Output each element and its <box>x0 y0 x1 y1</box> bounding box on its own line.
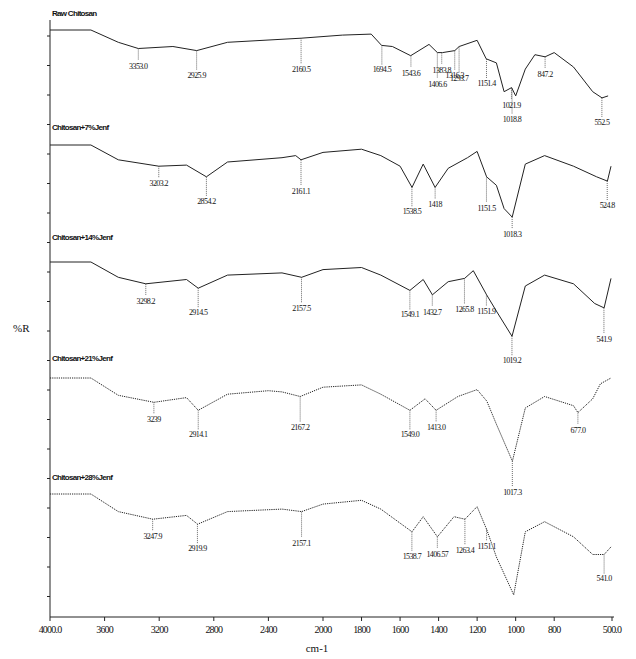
series-5: Chitosan+28%Jenf3247.92919.92157.11538.7… <box>50 473 612 595</box>
peak-label: 1406.57 <box>426 550 448 559</box>
series-title: Chitosan+28%Jenf <box>52 473 113 482</box>
series-title: Chitosan+7%Jenf <box>52 123 109 132</box>
series-4: Chitosan+21%Jenf32392914.12167.21549.014… <box>50 354 611 497</box>
peak-label: 1694.5 <box>373 65 392 74</box>
x-tick-label: 2800 <box>205 624 223 635</box>
peak-label: 2167.2 <box>291 423 310 432</box>
peak-label: 2925.9 <box>187 71 206 80</box>
series-1: Raw Chitosan3353.02925.92160.51694.51543… <box>50 9 610 127</box>
x-tick-label: 2400 <box>260 624 278 635</box>
peak-label: 3353.0 <box>129 62 148 71</box>
x-axis-label: cm-1 <box>306 642 329 654</box>
series-2: Chitosan+7%Jenf3203.22854.22161.11538.51… <box>50 123 615 239</box>
peak-label: 1018.8 <box>503 115 522 124</box>
peak-label: 1413.0 <box>427 423 446 432</box>
peak-label: 1538.7 <box>403 552 422 561</box>
peak-label: 1019.2 <box>503 356 522 365</box>
x-tick-label: 4000.0 <box>39 624 63 635</box>
x-tick-label: 1800 <box>353 624 371 635</box>
spectrum-line <box>50 378 611 461</box>
ftir-chart: 4000.03600320028002400200018001600140012… <box>0 0 636 659</box>
x-tick-label: 1000 <box>507 624 525 635</box>
peak-label: 1406.6 <box>428 80 447 89</box>
series-3: Chitosan+14%Jenf3298.22914.52157.51549.1… <box>50 233 612 365</box>
peak-label: 2157.1 <box>292 539 311 548</box>
peak-label: 677.0 <box>570 426 586 435</box>
peak-label: 1018.3 <box>503 230 522 239</box>
x-tick-label: 3200 <box>151 624 169 635</box>
x-tick-label: 800 <box>548 624 561 635</box>
peak-label: 552.5 <box>594 118 610 127</box>
peak-label: 1151.4 <box>477 79 496 88</box>
peak-label: 1151.5 <box>477 204 496 213</box>
spectrum-line <box>50 494 611 595</box>
series-title: Chitosan+21%Jenf <box>52 354 113 363</box>
peak-label: 1549.1 <box>401 310 420 319</box>
peak-label: 1543.6 <box>402 69 421 78</box>
peak-label: 847.2 <box>538 70 554 79</box>
peak-label: 1549.0 <box>401 430 420 439</box>
peak-label: 1151.1 <box>478 542 497 551</box>
peak-label: 2914.5 <box>189 308 208 317</box>
peak-label: 1432.7 <box>423 308 442 317</box>
peak-label: 1293.7 <box>450 74 469 83</box>
peak-label: 3247.9 <box>143 532 162 541</box>
peak-label: 3298.2 <box>137 297 156 306</box>
x-tick-label: 1600 <box>392 624 410 635</box>
series-title: Chitosan+14%Jenf <box>52 233 113 242</box>
x-tick-label: 1200 <box>469 624 487 635</box>
peak-label: 2919.9 <box>188 544 207 553</box>
y-axis-label: %R <box>13 322 30 334</box>
peak-label: 2854.2 <box>197 197 216 206</box>
peak-label: 3239 <box>147 415 161 424</box>
peak-label: 2157.5 <box>292 304 311 313</box>
spectrum-line <box>50 145 611 217</box>
peak-label: 1265.8 <box>455 305 474 314</box>
peak-label: 1263.4 <box>456 546 475 555</box>
peak-label: 541.0 <box>597 574 613 583</box>
peak-label: 1538.5 <box>403 207 422 216</box>
peak-label: 1418 <box>428 200 442 209</box>
peak-label: 1017.3 <box>503 488 522 497</box>
peak-label: 524.8 <box>600 201 616 210</box>
peak-label: 2161.1 <box>292 187 311 196</box>
x-tick-label: 1400 <box>430 624 448 635</box>
peak-label: 2914.1 <box>189 430 208 439</box>
peak-label: 3203.2 <box>150 179 169 188</box>
series-title: Raw Chitosan <box>52 9 97 18</box>
axes: 4000.03600320028002400200018001600140012… <box>39 20 622 635</box>
x-tick-label: 2000 <box>315 624 333 635</box>
spectrum-line <box>50 262 611 336</box>
x-tick-label: 500.0 <box>603 624 622 635</box>
x-tick-label: 3600 <box>96 624 114 635</box>
peak-label: 2160.5 <box>292 65 311 74</box>
peak-label: 1151.9 <box>477 307 496 316</box>
peak-label: 541.9 <box>596 335 612 344</box>
series-layer: Raw Chitosan3353.02925.92160.51694.51543… <box>50 9 615 595</box>
